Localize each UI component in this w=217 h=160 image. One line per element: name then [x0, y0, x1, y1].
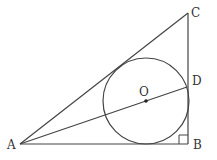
label-o: O	[139, 85, 149, 99]
center-point-o	[144, 99, 148, 103]
geometry-diagram: A B C D O	[0, 0, 217, 160]
label-b: B	[193, 138, 202, 152]
label-d: D	[192, 74, 202, 88]
label-c: C	[191, 6, 200, 20]
right-angle-marker	[179, 135, 188, 144]
label-a: A	[6, 138, 16, 152]
segment-ca	[20, 13, 188, 144]
